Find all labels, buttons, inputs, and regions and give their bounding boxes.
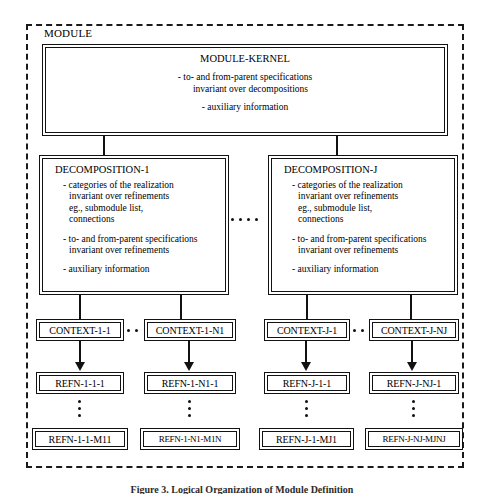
decomp1-line-1: - categories of the realization <box>63 180 174 190</box>
context-j-nj-box: CONTEXT-J-NJ <box>369 319 459 341</box>
refn-j-nj-mjnj-box: REFN-J-NJ-MJNJ <box>365 428 463 450</box>
decompj-line-3: eg., submodule list, <box>292 203 450 214</box>
decomp1-line-5: - to- and from-parent specifications <box>63 234 198 244</box>
decomposition-j-box: DECOMPOSITION-J - categories of the real… <box>268 155 458 295</box>
arrow-line-context-1-n1-to-refn <box>188 341 190 364</box>
refn-j-1-1-label: REFN-J-1-1 <box>268 376 346 390</box>
refn-ellipsis-1-1 <box>78 400 81 417</box>
arrow-head-context-1-1-to-refn <box>75 362 85 371</box>
arrow-head-context-j-nj-to-refn <box>407 362 417 371</box>
decomposition-1-body: - categories of the realization invarian… <box>63 180 221 276</box>
decomp1-line-3: eg., submodule list, <box>63 203 221 214</box>
refn-j-nj-mjnj-label: REFN-J-NJ-MJNJ <box>369 432 459 446</box>
decomp1-line-6: invariant over refinements <box>63 245 221 256</box>
context-1-1-label: CONTEXT-1-1 <box>40 323 120 337</box>
refn-ellipsis-j-1 <box>305 400 308 417</box>
context-1-n1-label: CONTEXT-1-N1 <box>148 323 232 337</box>
decomp1-line-4: connections <box>63 214 221 225</box>
decompj-line-5: - to- and from-parent specifications <box>292 234 427 244</box>
arrow-head-context-1-n1-to-refn <box>184 362 194 371</box>
decompj-line-6: invariant over refinements <box>292 245 450 256</box>
module-kernel-body: - to- and from-parent specifications inv… <box>46 72 444 114</box>
context-ellipsis-left <box>127 329 138 332</box>
kernel-line-1: - to- and from-parent specifications <box>178 72 313 82</box>
module-kernel-title: MODULE-KERNEL <box>46 53 444 64</box>
context-j-1-label: CONTEXT-J-1 <box>268 323 346 337</box>
connector-decomposition-1-to-context-1-n1 <box>180 295 182 319</box>
decomposition-1-title: DECOMPOSITION-1 <box>55 164 150 175</box>
arrow-line-context-j-1-to-refn <box>305 341 307 364</box>
arrow-line-context-j-nj-to-refn <box>411 341 413 364</box>
refn-j-1-mj1-label: REFN-J-1-MJ1 <box>263 432 350 446</box>
decomposition-ellipsis <box>231 218 258 221</box>
refn-ellipsis-1-n1 <box>188 400 191 417</box>
refn-1-n1-1-box: REFN-1-N1-1 <box>144 372 236 394</box>
decomposition-1-box: DECOMPOSITION-1 - categories of the real… <box>39 155 229 295</box>
refn-j-1-1-box: REFN-J-1-1 <box>264 372 350 394</box>
decompj-line-1: - categories of the realization <box>292 180 403 190</box>
connector-decomposition-1-to-context-1-1 <box>79 295 81 319</box>
figure-canvas: MODULE MODULE-KERNEL - to- and from-pare… <box>0 0 484 494</box>
context-ellipsis-right <box>353 329 364 332</box>
refn-1-n1-m1n-box: REFN-1-N1-M1N <box>140 428 240 450</box>
decomposition-j-body: - categories of the realization invarian… <box>292 180 450 276</box>
module-label: MODULE <box>44 27 92 39</box>
refn-j-nj-1-label: REFN-J-NJ-1 <box>373 376 455 390</box>
connector-decomposition-j-to-context-j-nj <box>410 295 412 319</box>
decomp1-line-7: - auxiliary information <box>63 264 150 274</box>
module-kernel-box: MODULE-KERNEL - to- and from-parent spec… <box>42 44 448 136</box>
decomposition-j-title: DECOMPOSITION-J <box>284 164 377 175</box>
decomp1-line-2: invariant over refinements <box>63 191 221 202</box>
arrow-line-context-1-1-to-refn <box>79 341 81 364</box>
refn-j-nj-1-box: REFN-J-NJ-1 <box>369 372 459 394</box>
decompj-line-2: invariant over refinements <box>292 191 450 202</box>
refn-j-1-mj1-box: REFN-J-1-MJ1 <box>259 428 354 450</box>
refn-1-n1-1-label: REFN-1-N1-1 <box>148 376 232 390</box>
kernel-line-3: - auxiliary information <box>202 102 289 112</box>
figure-caption: Figure 3. Logical Organization of Module… <box>0 484 484 494</box>
decompj-line-4: connections <box>292 214 450 225</box>
context-j-1-box: CONTEXT-J-1 <box>264 319 350 341</box>
refn-1-1-m11-label: REFN-1-1-M11 <box>36 432 124 446</box>
connector-decomposition-j-to-context-j-1 <box>306 295 308 319</box>
refn-1-n1-m1n-label: REFN-1-N1-M1N <box>144 432 236 446</box>
context-1-n1-box: CONTEXT-1-N1 <box>144 319 236 341</box>
refn-1-1-1-box: REFN-1-1-1 <box>36 372 124 394</box>
decompj-line-7: - auxiliary information <box>292 264 379 274</box>
refn-ellipsis-j-nj <box>412 400 415 417</box>
refn-1-1-1-label: REFN-1-1-1 <box>40 376 120 390</box>
arrow-head-context-j-1-to-refn <box>301 362 311 371</box>
refn-1-1-m11-box: REFN-1-1-M11 <box>32 428 128 450</box>
context-1-1-box: CONTEXT-1-1 <box>36 319 124 341</box>
context-j-nj-label: CONTEXT-J-NJ <box>373 323 455 337</box>
kernel-line-2: invariant over decompositions <box>46 84 444 96</box>
